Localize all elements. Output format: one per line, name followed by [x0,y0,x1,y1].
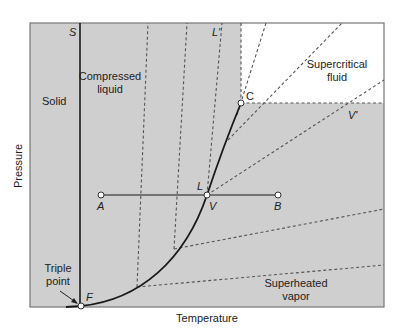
label-S: S [69,26,77,38]
point-B-marker [275,192,281,198]
region-compressed-2: liquid [97,83,123,95]
label-L-prime: L' [212,26,221,38]
y-axis-label: Pressure [12,144,24,188]
phase-diagram: S L' C V' A L V B F Solid Compressed liq… [0,0,398,334]
point-A-marker [98,192,104,198]
region-supercritical-1: Supercritical [307,58,368,70]
label-V-prime: V' [348,109,358,121]
x-axis-label: Temperature [176,312,238,324]
region-solid: Solid [42,95,66,107]
triple-point-label-2: point [46,275,70,287]
point-LV-marker [204,192,210,198]
region-supercritical-2: fluid [327,71,347,83]
region-compressed-1: Compressed [79,70,141,82]
triple-point-marker [78,303,84,309]
label-A: A [96,200,104,212]
triple-point-label-1: Triple [44,262,71,274]
critical-point-marker [238,100,244,106]
label-L: L [197,180,203,192]
region-superheated-1: Superheated [265,277,328,289]
region-superheated-2: vapor [282,290,310,302]
label-B: B [274,200,281,212]
label-C: C [246,90,254,102]
